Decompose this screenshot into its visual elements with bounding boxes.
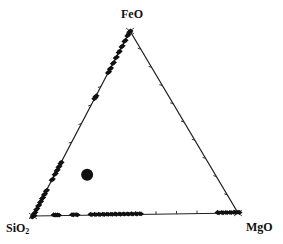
triangle-frame [29,28,242,219]
data-points [29,29,242,220]
tick-marks [40,48,228,216]
vertex-label-mgo: MgO [246,221,273,233]
vertex-label-sio2: SiO2 [6,222,29,236]
vertex-label-feo: FeO [121,8,143,20]
data-point-large [81,169,93,181]
ternary-diagram [0,0,283,244]
triangle-outline [33,31,238,216]
